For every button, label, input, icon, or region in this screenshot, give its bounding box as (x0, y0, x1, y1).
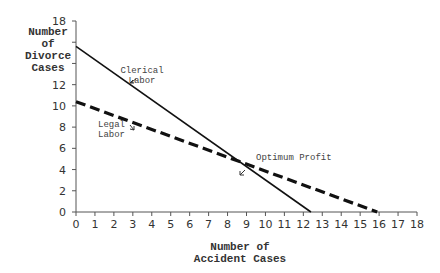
x-tick-label: 12 (296, 218, 310, 231)
y-tick-label: 4 (59, 164, 66, 177)
y-tick-label: 8 (59, 121, 66, 134)
y-tick-label: 10 (52, 100, 66, 113)
y-tick-label: 6 (59, 142, 66, 155)
y-axis-label: Number of Divorce Cases (20, 26, 76, 74)
x-tick-label: 4 (148, 218, 155, 231)
x-tick-label: 9 (243, 218, 250, 231)
x-tick-label: 8 (224, 218, 231, 231)
arrow-icon (130, 125, 134, 130)
annotation-legal-labor: LegalLabor (98, 120, 125, 140)
x-tick-label: 10 (258, 218, 272, 231)
x-tick-label: 18 (410, 218, 424, 231)
x-tick-label: 17 (391, 218, 405, 231)
x-axis-label: Number of Accident Cases (180, 241, 300, 265)
x-tick-label: 13 (315, 218, 329, 231)
x-tick-label: 2 (110, 218, 117, 231)
x-tick-label: 5 (167, 218, 174, 231)
arrow-icon (240, 170, 245, 175)
x-tick-label: 11 (277, 218, 291, 231)
series-legal-labor (76, 102, 377, 212)
x-tick-label: 6 (186, 218, 193, 231)
x-tick-label: 1 (91, 218, 98, 231)
chart-root: 012345678910111213141516171802468101218C… (0, 0, 440, 273)
x-tick-label: 14 (334, 218, 348, 231)
annotation-optimum-profit: Optimum Profit (256, 153, 332, 163)
y-tick-label: 2 (59, 185, 66, 198)
x-tick-label: 16 (372, 218, 386, 231)
x-tick-label: 0 (73, 218, 80, 231)
x-tick-label: 15 (353, 218, 367, 231)
x-tick-label: 3 (129, 218, 136, 231)
y-tick-label: 12 (52, 79, 66, 92)
x-tick-label: 7 (205, 218, 212, 231)
y-tick-label: 0 (59, 206, 66, 219)
